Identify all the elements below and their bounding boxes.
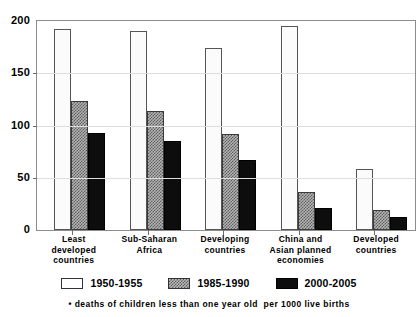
legend-item[interactable]: 2000-2005 [276, 277, 357, 289]
category-label-line: economies [264, 255, 338, 266]
bar-2 [239, 160, 256, 230]
y-tick-label: 200 [11, 15, 30, 26]
bar-1 [71, 101, 88, 230]
bar-0 [54, 29, 71, 230]
legend-swatch-icon [61, 278, 83, 289]
legend-label: 1985-1990 [197, 277, 249, 289]
legend-item[interactable]: 1950-1955 [61, 277, 142, 289]
y-tick-mark [33, 73, 37, 74]
bar-1 [222, 134, 239, 230]
y-tick-label: 150 [11, 67, 30, 78]
bar-0 [205, 48, 222, 230]
category-label-line: Developing [188, 234, 262, 245]
category-label-line: countries [188, 245, 262, 256]
x-axis-category-label: Leastdevelopedcountries [36, 234, 112, 274]
category-label-line: Developed [339, 234, 413, 245]
category-label-line: Least [37, 234, 111, 245]
legend-label: 2000-2005 [305, 277, 357, 289]
y-tick-label: 100 [11, 119, 30, 130]
x-axis-category-label: Developedcountries [338, 234, 414, 274]
x-axis-category-label: Developingcountries [187, 234, 263, 274]
legend-item[interactable]: 1985-1990 [168, 277, 249, 289]
gridline [37, 178, 415, 179]
bar-2 [88, 133, 105, 230]
y-tick-label: 0 [24, 224, 30, 235]
x-axis-category-label: China andAsian plannedeconomies [263, 234, 339, 274]
y-tick-label: 50 [17, 171, 30, 182]
y-axis-tick-labels: 050100150200 [0, 0, 34, 240]
bar-1 [298, 192, 315, 230]
bar-0 [281, 26, 298, 230]
bar-2 [315, 208, 332, 230]
chart-footnote: • deaths of children less than one year … [0, 299, 418, 309]
y-tick-mark [33, 178, 37, 179]
category-label-line: Asian planned [264, 245, 338, 256]
y-tick-mark [33, 126, 37, 127]
gridline [37, 126, 415, 127]
bar-1 [147, 111, 164, 230]
x-axis-category-label: Sub-SaharanAfrica [112, 234, 188, 274]
infant-mortality-bar-chart: 050100150200 LeastdevelopedcountriesSub-… [0, 0, 418, 317]
legend-swatch-icon [168, 278, 190, 289]
chart-legend: 1950-19551985-19902000-2005 [0, 277, 418, 289]
category-label-line: countries [37, 255, 111, 266]
category-label-line: Sub-Saharan [113, 234, 187, 245]
gridline [37, 73, 415, 74]
category-label-line: countries [339, 245, 413, 256]
category-label-line: developed [37, 245, 111, 256]
bar-2 [390, 217, 407, 230]
legend-label: 1950-1955 [90, 277, 142, 289]
category-label-line: Africa [113, 245, 187, 256]
plot-area [36, 20, 416, 231]
x-axis-category-labels: LeastdevelopedcountriesSub-SaharanAfrica… [36, 234, 414, 274]
category-label-line: China and [264, 234, 338, 245]
legend-swatch-icon [276, 278, 298, 289]
bar-2 [164, 141, 181, 230]
plot-wrapper: 050100150200 [0, 0, 418, 240]
bar-0 [130, 31, 147, 230]
bar-1 [373, 210, 390, 230]
